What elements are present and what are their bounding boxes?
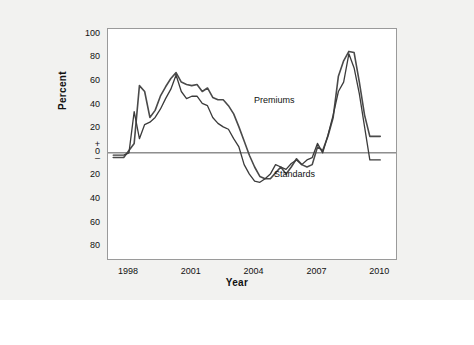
series-label-standards: Standards	[274, 169, 315, 179]
y-tick-label: 100	[74, 28, 100, 38]
y-tick-label: 80	[74, 240, 100, 250]
plot-area: Premiums Standards	[107, 28, 397, 260]
y-axis-label: Percent	[57, 71, 68, 110]
y-tick-label: 20	[74, 169, 100, 179]
chart-figure: Premiums Standards 10080604020+0–2040608…	[0, 0, 474, 300]
y-tick-label: 60	[74, 217, 100, 227]
x-tick-label: 2004	[237, 266, 271, 276]
y-tick-label: 60	[74, 75, 100, 85]
y-tick-label: 80	[74, 51, 100, 61]
x-tick-label: 2001	[174, 266, 208, 276]
x-tick-label: 2007	[299, 266, 333, 276]
series-line-premiums	[113, 51, 380, 178]
series-label-premiums: Premiums	[254, 95, 295, 105]
chart-svg	[108, 29, 396, 259]
y-tick-label: 40	[74, 99, 100, 109]
y-tick-label: 20	[74, 122, 100, 132]
series-lines	[113, 51, 380, 182]
y-tick-label: 40	[74, 193, 100, 203]
footer-area: smudged text artifact line one smudged t…	[0, 300, 474, 345]
x-tick-label: 2010	[362, 266, 396, 276]
x-tick-label: 1998	[111, 266, 145, 276]
y-tick-label: –	[74, 153, 100, 163]
x-axis-label: Year	[226, 277, 248, 288]
